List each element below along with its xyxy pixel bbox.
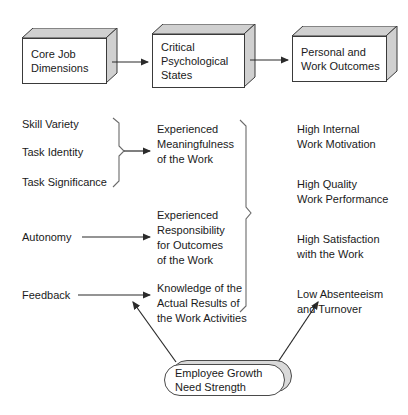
psych-state-knowledge-of-results: Knowledge of the Actual Results of the W… (157, 281, 247, 326)
core-dimension-skill-variety: Skill Variety (22, 117, 79, 132)
core-dimension-task-identity: Task Identity (22, 145, 83, 160)
outcome-high-quality-work-performance: High Quality Work Performance (297, 177, 389, 207)
psych-state-experienced-meaningfulness: Experienced Meaningfulness of the Work (157, 122, 234, 167)
moderator-pill-label: Employee Growth Need Strength (164, 364, 285, 396)
outcome-high-internal-work-motivation: High Internal Work Motivation (297, 122, 376, 152)
core-dimension-autonomy: Autonomy (22, 230, 72, 245)
outcome-high-satisfaction-with-the-work: High Satisfaction with the Work (297, 232, 380, 262)
outcome-low-absenteeism-and-turnover: Low Absenteeism and Turnover (297, 287, 383, 317)
psych-state-experienced-responsibility: Experienced Responsibility for Outcomes … (157, 208, 225, 268)
moderator-employee-growth-need-strength: Employee Growth Need Strength (164, 360, 292, 396)
job-characteristics-model-diagram: Core Job Dimensions Critical Psychologic… (0, 0, 408, 415)
brace-core-job-dimensions (113, 118, 124, 187)
core-dimension-task-significance: Task Significance (22, 175, 107, 190)
core-dimension-feedback: Feedback (22, 288, 70, 303)
